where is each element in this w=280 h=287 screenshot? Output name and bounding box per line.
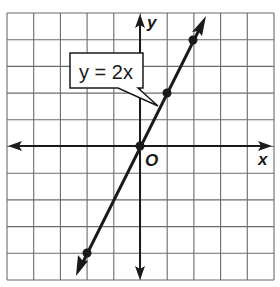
point-origin [136, 142, 145, 151]
equation-label: y = 2x [79, 61, 133, 83]
coordinate-plane: y = 2x y x O [0, 0, 280, 287]
x-axis-label: x [257, 150, 269, 169]
y-axis-label: y [146, 13, 158, 32]
point-neg2-neg4 [83, 249, 92, 258]
origin-label: O [145, 151, 158, 170]
point-2-4 [189, 36, 198, 45]
point-1-2 [163, 89, 172, 98]
